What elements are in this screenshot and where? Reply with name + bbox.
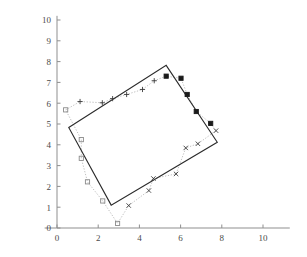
square-filled-marker xyxy=(185,92,189,96)
square-filled-marker xyxy=(164,74,168,78)
measurement-polyline xyxy=(66,76,216,223)
square-filled-marker xyxy=(209,121,213,125)
square-filled-marker xyxy=(179,76,183,80)
rectangle-outline-path xyxy=(69,65,218,205)
y-tick-label: 9 xyxy=(47,36,52,46)
square-filled-marker xyxy=(194,109,198,113)
x-tick-label: 6 xyxy=(178,233,183,243)
figure-container: 0123456789100246810 xyxy=(0,0,307,257)
x-tick-label: 4 xyxy=(137,233,142,243)
x-tick-label: 2 xyxy=(96,233,101,243)
measurement-polyline-path xyxy=(66,76,216,223)
x-tick-label: 0 xyxy=(55,233,60,243)
rectangle-outline xyxy=(69,65,218,205)
cross-marker xyxy=(196,142,200,146)
y-tick-label: 3 xyxy=(47,161,52,171)
cross-marker xyxy=(214,128,218,132)
scatter-plot: 0123456789100246810 xyxy=(0,0,307,257)
y-tick-label: 10 xyxy=(42,15,52,25)
plus-marker xyxy=(124,92,129,97)
x-tick-label: 10 xyxy=(259,233,269,243)
square-open-marker xyxy=(115,221,119,225)
plus-marker xyxy=(77,99,82,104)
y-tick-label: 8 xyxy=(47,57,52,67)
y-tick-label: 6 xyxy=(47,99,52,109)
y-tick-label: 4 xyxy=(47,140,52,150)
y-tick-label: 7 xyxy=(47,78,52,88)
cross-marker xyxy=(126,203,130,207)
y-tick-label: 2 xyxy=(47,182,52,192)
y-tick-label: 1 xyxy=(47,203,52,213)
cross-marker xyxy=(184,146,188,150)
axes-layer xyxy=(45,16,290,228)
plus-marker xyxy=(140,87,145,92)
y-tick-label: 0 xyxy=(47,223,52,233)
cross-marker xyxy=(147,188,151,192)
square-open-marker xyxy=(79,138,83,142)
tick-labels-layer: 0123456789100246810 xyxy=(42,15,268,243)
data-markers-layer xyxy=(64,74,219,225)
y-tick-label: 5 xyxy=(47,119,52,129)
x-tick-label: 8 xyxy=(220,233,225,243)
